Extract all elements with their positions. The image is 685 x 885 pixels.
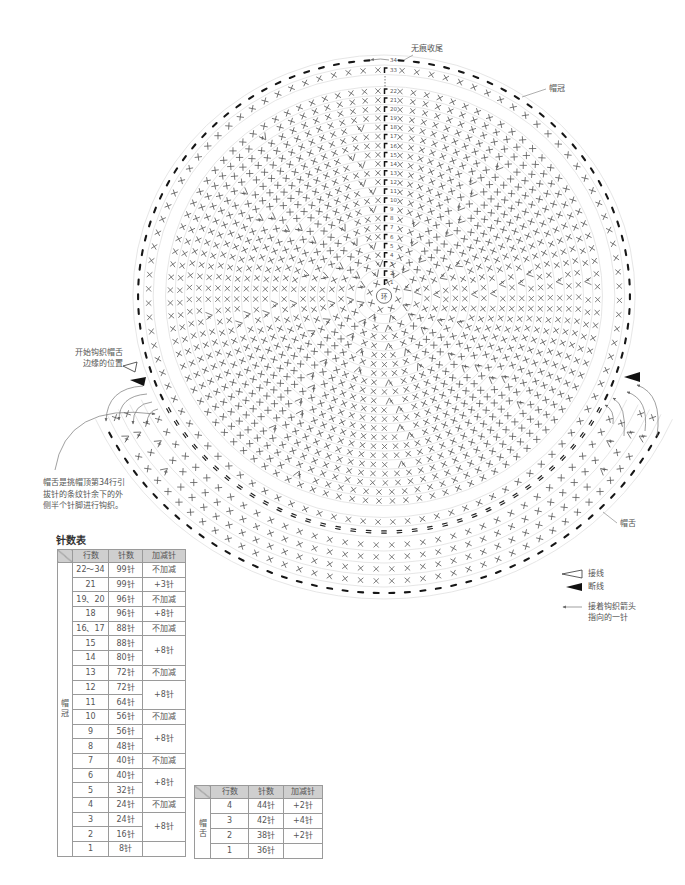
increase-mark	[351, 239, 360, 248]
single-crochet-mark	[594, 271, 599, 276]
single-crochet-mark	[289, 255, 295, 261]
single-crochet-mark	[468, 215, 475, 222]
table-row: 1056针不加减	[58, 709, 186, 724]
stitch-count-cell: 40针	[109, 753, 143, 768]
row-number-cell: 10	[73, 709, 109, 724]
single-crochet-mark	[413, 422, 419, 428]
single-crochet-mark	[243, 397, 249, 403]
single-crochet-mark	[297, 176, 303, 182]
single-crochet-mark	[405, 518, 410, 523]
single-crochet-mark	[330, 386, 336, 392]
single-crochet-mark	[330, 426, 336, 432]
single-crochet-mark	[437, 162, 443, 168]
single-crochet-mark	[397, 171, 402, 176]
single-crochet-mark	[510, 296, 515, 301]
single-crochet-mark	[151, 343, 156, 348]
single-crochet-mark	[563, 186, 569, 192]
single-crochet-mark	[305, 341, 311, 347]
single-crochet-mark	[176, 351, 182, 357]
single-crochet-mark	[436, 192, 442, 198]
slip-stitch-loop-mark	[443, 523, 448, 526]
single-crochet-mark	[418, 166, 424, 172]
single-crochet-mark	[506, 398, 512, 404]
single-crochet-mark	[398, 116, 403, 121]
single-crochet-mark	[365, 217, 370, 222]
single-crochet-mark	[261, 227, 267, 233]
row-number-label: 15	[390, 152, 397, 158]
single-crochet-mark	[402, 329, 408, 335]
single-crochet-mark	[297, 529, 303, 535]
single-crochet-mark	[480, 132, 486, 138]
slip-stitch-mark	[167, 181, 169, 185]
increase-mark	[386, 398, 393, 405]
single-crochet-mark	[346, 468, 351, 473]
single-crochet-mark	[254, 435, 260, 441]
single-crochet-mark	[505, 161, 511, 167]
single-crochet-mark	[452, 306, 457, 311]
increase-decrease-cell: 不加减	[143, 592, 186, 607]
single-crochet-mark	[435, 537, 440, 542]
single-crochet-mark	[548, 499, 554, 505]
single-crochet-mark	[404, 415, 409, 420]
single-crochet-mark	[541, 250, 547, 256]
single-crochet-mark	[351, 432, 356, 437]
single-crochet-mark	[425, 296, 430, 301]
increase-decrease-cell: 不加减	[143, 665, 186, 680]
single-crochet-mark	[549, 513, 555, 519]
single-crochet-mark	[351, 118, 356, 123]
single-crochet-mark	[425, 438, 431, 444]
single-crochet-mark	[419, 147, 425, 153]
single-crochet-mark	[267, 190, 274, 197]
slip-stitch-mark	[236, 104, 240, 107]
increase-mark	[369, 243, 377, 250]
single-crochet-mark	[606, 227, 612, 233]
single-crochet-mark	[261, 169, 268, 176]
single-crochet-mark	[327, 537, 332, 542]
single-crochet-mark	[155, 230, 161, 236]
single-crochet-mark	[376, 68, 381, 73]
single-crochet-mark	[397, 144, 402, 149]
single-crochet-mark	[335, 465, 341, 471]
single-crochet-mark	[180, 468, 186, 474]
brim-row-turn-arrow	[627, 392, 646, 431]
single-crochet-mark	[274, 449, 280, 455]
single-crochet-mark	[244, 286, 249, 291]
single-crochet-mark	[589, 246, 595, 252]
slip-stitch-mark	[145, 236, 146, 241]
single-crochet-mark	[546, 317, 551, 322]
single-crochet-mark	[270, 162, 276, 168]
slip-stitch-mark	[249, 96, 253, 99]
single-crochet-mark	[267, 203, 273, 209]
single-crochet-mark	[147, 272, 152, 277]
single-crochet-mark	[459, 444, 465, 450]
single-crochet-mark	[371, 380, 376, 385]
single-crochet-mark	[346, 517, 351, 522]
slip-stitch-loop-mark	[589, 420, 593, 425]
single-crochet-mark	[556, 212, 562, 218]
single-crochet-mark	[420, 476, 425, 481]
stitch-count-cell: 16针	[109, 827, 143, 842]
single-crochet-mark	[497, 97, 503, 103]
single-crochet-mark	[267, 530, 273, 536]
single-crochet-mark	[397, 162, 402, 167]
single-crochet-mark	[354, 230, 360, 236]
slip-stitch-mark	[606, 194, 608, 199]
single-crochet-mark	[304, 445, 310, 451]
single-crochet-mark	[477, 344, 483, 350]
single-crochet-mark	[520, 247, 526, 253]
slip-stitch-mark	[192, 144, 195, 148]
single-crochet-mark	[572, 330, 577, 335]
single-crochet-mark	[461, 306, 466, 311]
single-crochet-mark	[270, 372, 276, 378]
slip-stitch-loop-mark	[214, 466, 219, 471]
slip-stitch-mark	[622, 236, 623, 241]
single-crochet-mark	[349, 285, 355, 291]
single-crochet-mark	[535, 421, 541, 427]
single-crochet-mark	[562, 518, 568, 524]
single-crochet-mark	[240, 447, 246, 453]
single-crochet-mark	[345, 315, 351, 321]
single-crochet-mark	[569, 342, 575, 348]
single-crochet-mark	[331, 514, 336, 519]
increase-mark	[499, 280, 506, 287]
crown-label: 帽冠	[549, 84, 565, 95]
